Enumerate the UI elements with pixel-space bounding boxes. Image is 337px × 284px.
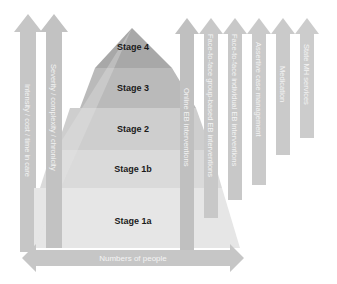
online-eb-label: Online EB interventions [182, 88, 191, 167]
severity-label: Severity / complexity / chronicity [49, 64, 58, 171]
group-eb-label: Face-to-face group-based EB intervention… [206, 34, 215, 177]
medication-label: Medication [278, 66, 287, 102]
assertive-case-label: Assertive case management [254, 42, 263, 138]
stage-1a-label: Stage 1a [114, 216, 152, 226]
stage-3-label: Stage 3 [117, 83, 149, 93]
state-mh-label: State MH services [302, 44, 311, 105]
individual-eb-label: Face-to-face individual EB interventions [230, 34, 239, 166]
stepped-care-diagram: Stage 4 Stage 3 Stage 2 Stage 1b Stage 1… [0, 0, 337, 284]
numbers-label: Numbers of people [99, 254, 167, 263]
stage-2-label: Stage 2 [117, 124, 149, 134]
intensity-label: Intensity / cost / time in care [23, 84, 32, 177]
stage-1b-label: Stage 1b [114, 164, 152, 174]
stage-4-label: Stage 4 [117, 42, 149, 52]
